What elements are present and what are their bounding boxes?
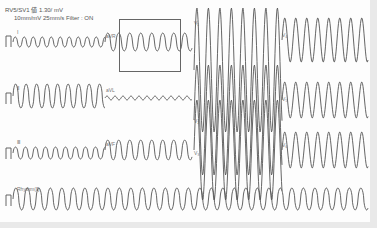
ecg-display: RV5/SV1 値 1.30/ mV 10mm/mV 25mm/s Filter…: [0, 0, 370, 222]
window-edge: [370, 0, 377, 228]
ecg-traces: [0, 0, 370, 222]
selection-box[interactable]: [119, 19, 181, 72]
calibration-pulse: [6, 36, 11, 47]
